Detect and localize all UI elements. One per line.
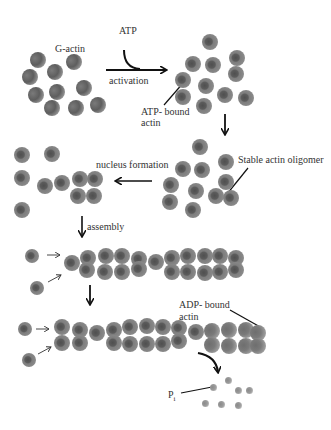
nucleus-actin bbox=[87, 171, 103, 187]
oligomer-actin bbox=[175, 161, 191, 177]
phosphate-dot bbox=[202, 400, 209, 407]
phosphate-dot bbox=[210, 384, 217, 391]
atp-bound-actin bbox=[238, 90, 254, 106]
oligomer-actin bbox=[162, 194, 178, 210]
filament-actin bbox=[97, 264, 113, 280]
atp-bound-actin bbox=[175, 72, 191, 88]
filament-actin bbox=[212, 248, 228, 264]
oligomer-actin bbox=[192, 139, 208, 155]
oligomer-actin bbox=[194, 162, 210, 178]
phosphate-dot bbox=[225, 377, 232, 384]
free-actin-monomer bbox=[18, 322, 32, 336]
atp-bound-actin bbox=[185, 56, 201, 72]
oligomer-actin bbox=[163, 177, 179, 193]
label-adp-bound-2: actin bbox=[179, 311, 198, 322]
atp-bound-actin bbox=[175, 89, 191, 105]
phosphate-dot bbox=[235, 402, 242, 409]
label-g-actin: G-actin bbox=[55, 43, 85, 54]
filament-actin bbox=[54, 319, 70, 335]
filament-actin bbox=[72, 335, 88, 351]
label-assembly: assembly bbox=[87, 221, 124, 232]
atp-bound-actin bbox=[229, 50, 245, 66]
g-actin-monomer bbox=[49, 84, 65, 100]
g-actin-monomer bbox=[28, 87, 44, 103]
adp-bound-actin bbox=[221, 322, 237, 338]
oligomer-actin bbox=[208, 188, 224, 204]
phosphate-dot bbox=[246, 387, 253, 394]
filament-actin bbox=[155, 336, 171, 352]
filament-actin bbox=[180, 264, 196, 280]
label-activation: activation bbox=[109, 75, 148, 86]
filament-actin bbox=[164, 264, 180, 280]
filament-actin bbox=[79, 262, 95, 278]
nucleus-actin bbox=[44, 146, 60, 162]
nucleus-actin bbox=[70, 188, 86, 204]
phosphate-release-arrow-icon bbox=[198, 353, 218, 372]
g-actin-monomer bbox=[66, 54, 82, 70]
nucleus-actin bbox=[54, 175, 70, 191]
g-actin-monomer bbox=[68, 100, 84, 116]
nucleus-actin bbox=[72, 171, 88, 187]
monomer-add-arrow-icon bbox=[48, 275, 61, 282]
filament-actin bbox=[98, 248, 114, 264]
oligomer-actin bbox=[188, 183, 204, 199]
adp-bound-actin bbox=[221, 338, 237, 354]
atp-bound-actin bbox=[202, 34, 218, 50]
activation-arrow-icon bbox=[106, 50, 166, 70]
pi-subscript: i bbox=[174, 395, 176, 403]
oligomer-actin bbox=[185, 202, 201, 218]
filament-actin bbox=[122, 319, 138, 335]
filament-actin bbox=[64, 255, 80, 271]
label-stable-oligomer: Stable actin oligomer bbox=[238, 154, 324, 165]
oligomer-actin bbox=[223, 190, 239, 206]
filament-actin bbox=[197, 265, 213, 281]
nucleus-actin bbox=[14, 147, 30, 163]
free-actin-monomer bbox=[30, 281, 44, 295]
free-actin-monomer bbox=[22, 353, 36, 367]
label-atp-bound-1: ATP- bound bbox=[141, 106, 190, 117]
g-actin-monomer bbox=[76, 80, 92, 96]
filament-actin bbox=[228, 262, 244, 278]
free-actin-monomer bbox=[25, 249, 39, 263]
filament-actin bbox=[139, 336, 155, 352]
atp-bound-actin bbox=[228, 66, 244, 82]
filament-actin bbox=[139, 318, 155, 334]
filament-actin bbox=[171, 333, 187, 349]
atp-bound-actin bbox=[205, 57, 221, 73]
nucleus-actin bbox=[14, 170, 30, 186]
filament-actin bbox=[54, 335, 70, 351]
g-actin-monomer bbox=[47, 64, 63, 80]
filament-actin bbox=[114, 248, 130, 264]
label-adp-bound-1: ADP- bound bbox=[179, 299, 230, 310]
actin-polymerization-diagram: G-actin ATP activation ATP- bound actin … bbox=[0, 0, 331, 430]
pi-pointer bbox=[181, 387, 212, 393]
phosphate-dot bbox=[235, 387, 242, 394]
label-nucleus-formation: nucleus formation bbox=[96, 159, 168, 170]
filament-actin bbox=[212, 264, 228, 280]
nucleus-actin bbox=[86, 188, 102, 204]
filament-actin bbox=[122, 336, 138, 352]
filament-actin bbox=[89, 325, 105, 341]
g-actin-monomer bbox=[90, 97, 106, 113]
nucleus-actin bbox=[14, 202, 30, 218]
oligomer-actin bbox=[218, 154, 234, 170]
phosphate-dot bbox=[218, 401, 225, 408]
filament-actin bbox=[114, 264, 130, 280]
filament-actin bbox=[197, 248, 213, 264]
filament-actin bbox=[188, 324, 204, 340]
filament-actin bbox=[131, 261, 147, 277]
adp-bound-actin bbox=[204, 337, 220, 353]
atp-bound-actin bbox=[217, 87, 233, 103]
nucleus-actin bbox=[37, 178, 53, 194]
filament-actin bbox=[106, 335, 122, 351]
g-actin-monomer bbox=[30, 52, 46, 68]
filament-actin bbox=[180, 248, 196, 264]
atp-bound-actin bbox=[196, 98, 212, 114]
g-actin-monomer bbox=[44, 100, 60, 116]
filament-actin bbox=[148, 254, 164, 270]
g-actin-monomer bbox=[22, 69, 38, 85]
oligomer-actin bbox=[218, 174, 234, 190]
label-atp-bound-2: actin bbox=[141, 117, 160, 128]
label-atp: ATP bbox=[119, 25, 137, 36]
atp-bound-actin bbox=[198, 78, 214, 94]
